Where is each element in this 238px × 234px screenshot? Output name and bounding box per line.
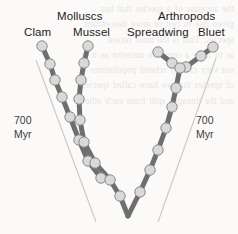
tree-node bbox=[37, 41, 47, 51]
scale-annotation-left: 700 Myr bbox=[14, 114, 32, 141]
tree-node bbox=[79, 137, 89, 147]
tree-node bbox=[74, 94, 84, 104]
figure-panel: the ancestor of a species that has given… bbox=[0, 0, 238, 234]
taxon-label-bluet: Bluet bbox=[198, 26, 225, 38]
tree-node bbox=[75, 115, 85, 125]
scale-left-unit: Myr bbox=[14, 128, 32, 142]
scale-annotation-right: 700 Myr bbox=[196, 114, 214, 141]
group-label-arthropods: Arthropods bbox=[158, 10, 215, 22]
tree-node bbox=[76, 75, 86, 85]
tree-node bbox=[90, 158, 100, 168]
tree-node bbox=[161, 123, 171, 133]
tree-node bbox=[196, 51, 206, 61]
tree-node bbox=[57, 92, 67, 102]
tree-node bbox=[79, 58, 89, 68]
tree-node bbox=[171, 83, 181, 93]
tree-nodes bbox=[37, 41, 218, 201]
tree-node bbox=[115, 191, 125, 201]
tree-node bbox=[208, 42, 218, 52]
taxon-label-spreadwing: Spreadwing bbox=[127, 26, 189, 38]
tree-node bbox=[167, 102, 177, 112]
taxon-label-clam: Clam bbox=[24, 26, 51, 38]
tree-node bbox=[65, 112, 75, 122]
tree-node bbox=[105, 175, 115, 185]
tree-node bbox=[175, 63, 185, 73]
tree-node bbox=[153, 47, 163, 57]
tree-node bbox=[153, 145, 163, 155]
group-label-molluscs: Molluscs bbox=[57, 10, 103, 22]
scale-left-value: 700 bbox=[14, 114, 32, 128]
tree-node bbox=[50, 75, 60, 85]
scale-right-value: 700 bbox=[196, 114, 214, 128]
tree-node bbox=[145, 165, 155, 175]
taxon-label-mussel: Mussel bbox=[73, 26, 110, 38]
tree-node bbox=[83, 41, 93, 51]
tree-node bbox=[45, 59, 55, 69]
guide-lines bbox=[36, 58, 216, 222]
scale-right-unit: Myr bbox=[196, 128, 214, 142]
tree-node bbox=[135, 187, 145, 197]
